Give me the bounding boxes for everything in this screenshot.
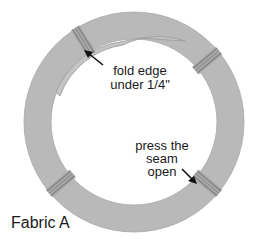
fold-edge-label-line1: fold edge (113, 63, 167, 78)
ring-diagram: fold edge under 1/4" press the seam open… (0, 0, 266, 247)
fabric-ring (24, 12, 244, 232)
press-seam-label-line3: open (148, 164, 177, 179)
fold-edge-label-line2: under 1/4" (110, 77, 170, 92)
fabric-name-label: Fabric A (11, 214, 70, 231)
